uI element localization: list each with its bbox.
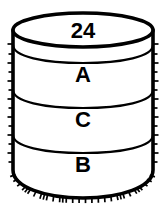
band-label-c: C <box>0 109 166 131</box>
band-label-a: A <box>0 64 166 86</box>
band-label-top: 24 <box>0 20 166 42</box>
band-label-b: B <box>0 154 166 176</box>
figure-root: 24 A C B <box>0 0 166 209</box>
